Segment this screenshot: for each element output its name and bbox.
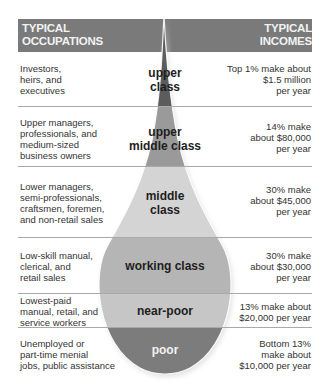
middle-class-label: middle class <box>105 189 225 217</box>
income-line: 14% make <box>250 121 311 132</box>
occupation-line: and non-retail sales <box>20 214 104 225</box>
occupation-line: Low-skill manual, <box>20 250 93 261</box>
occupation-line: Lower managers, <box>20 181 104 192</box>
occupation-line: jobs, public assistance <box>20 360 115 371</box>
class-label-line: near-poor <box>105 304 225 318</box>
upper-class-occupations: Investors, heirs, and executives <box>20 63 65 96</box>
income-line: make about <box>239 349 311 360</box>
upper-class-label: upper class <box>105 66 225 94</box>
occupation-line: heirs, and <box>20 74 65 85</box>
occupation-line: medium-sized <box>20 139 97 150</box>
upper-class-income: Top 1% make about $1.5 million per year <box>227 63 311 96</box>
income-line: $1.5 million <box>227 74 311 85</box>
income-line: 30% make <box>250 250 311 261</box>
class-label-line: middle class <box>105 139 225 153</box>
income-line: about $45,000 <box>250 195 311 206</box>
occupation-line: clerical, and <box>20 261 93 272</box>
divider-3 <box>18 237 312 238</box>
income-line: Bottom 13% <box>239 338 311 349</box>
class-label-line: class <box>105 80 225 94</box>
upper-middle-class-occupations: Upper managers, professionals, and mediu… <box>20 117 97 161</box>
occupation-line: service workers <box>20 317 98 328</box>
poor-label: poor <box>105 343 225 357</box>
income-line: 13% make about <box>239 301 311 312</box>
divider-1 <box>18 106 312 107</box>
upper-middle-class-income: 14% make about $80,000 per year <box>250 121 311 154</box>
occupation-line: Upper managers, <box>20 117 97 128</box>
near-poor-income: 13% make about $20,000 per year <box>239 301 311 323</box>
near-poor-label: near-poor <box>105 304 225 318</box>
class-label-line: working class <box>105 259 225 273</box>
occupation-line: craftsmen, foremen, <box>20 203 104 214</box>
income-line: Top 1% make about <box>227 63 311 74</box>
occupation-line: Investors, <box>20 63 65 74</box>
income-line: per year <box>250 143 311 154</box>
upper-middle-class-label: upper middle class <box>105 125 225 153</box>
income-line: 30% make <box>250 184 311 195</box>
income-line: about $30,000 <box>250 261 311 272</box>
near-poor-occupations: Lowest-paid manual, retail, and service … <box>20 295 98 328</box>
income-line: per year <box>250 206 311 217</box>
poor-occupations: Unemployed or part-time menial jobs, pub… <box>20 338 115 371</box>
class-label-line: upper <box>105 125 225 139</box>
divider-2 <box>18 166 312 167</box>
occupation-line: business owners <box>20 150 97 161</box>
occupation-line: executives <box>20 85 65 96</box>
working-class-income: 30% make about $30,000 per year <box>250 250 311 283</box>
occupation-line: part-time menial <box>20 349 115 360</box>
class-label-line: upper <box>105 66 225 80</box>
class-label-line: poor <box>105 343 225 357</box>
poor-income: Bottom 13% make about $10,000 per year <box>239 338 311 371</box>
occupation-line: Lowest-paid <box>20 295 98 306</box>
working-class-occupations: Low-skill manual, clerical, and retail s… <box>20 250 93 283</box>
income-line: $20,000 per year <box>239 312 311 323</box>
income-line: per year <box>250 272 311 283</box>
occupation-line: Unemployed or <box>20 338 115 349</box>
divider-4 <box>18 293 312 294</box>
income-line: $10,000 per year <box>239 360 311 371</box>
class-label-line: middle <box>105 189 225 203</box>
middle-class-occupations: Lower managers, semi-professionals, craf… <box>20 181 104 225</box>
income-line: per year <box>227 85 311 96</box>
income-line: about $80,000 <box>250 132 311 143</box>
occupation-line: manual, retail, and <box>20 306 98 317</box>
class-label-line: class <box>105 203 225 217</box>
middle-class-income: 30% make about $45,000 per year <box>250 184 311 217</box>
working-class-label: working class <box>105 259 225 273</box>
occupation-line: professionals, and <box>20 128 97 139</box>
occupation-line: semi-professionals, <box>20 192 104 203</box>
occupation-line: retail sales <box>20 272 93 283</box>
